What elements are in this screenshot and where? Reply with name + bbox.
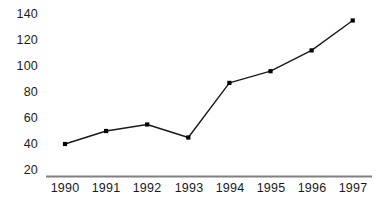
x-tick-label-1995: 1995 (249, 181, 293, 195)
x-tick-label-1994: 1994 (208, 181, 252, 195)
data-point-1993 (186, 135, 190, 139)
x-tick-label-1990: 1990 (43, 181, 87, 195)
data-point-1992 (145, 122, 149, 126)
x-tick-label-1993: 1993 (167, 181, 211, 195)
line-chart: 140 120 100 80 60 40 20 1990 1991 1992 1… (0, 0, 383, 216)
data-point-1996 (310, 48, 314, 52)
data-point-1991 (104, 129, 108, 133)
data-point-1990 (63, 142, 67, 146)
x-tick-label-1991: 1991 (84, 181, 128, 195)
x-tick-label-1996: 1996 (290, 181, 334, 195)
x-axis: 1990 1991 1992 1993 1994 1995 1996 1997 (0, 181, 383, 201)
data-line (65, 21, 353, 145)
data-point-1995 (268, 69, 272, 73)
data-point-1997 (351, 18, 355, 22)
data-markers (63, 18, 355, 146)
x-tick-label-1992: 1992 (125, 181, 169, 195)
x-tick-label-1997: 1997 (331, 181, 375, 195)
data-point-1994 (227, 81, 231, 85)
